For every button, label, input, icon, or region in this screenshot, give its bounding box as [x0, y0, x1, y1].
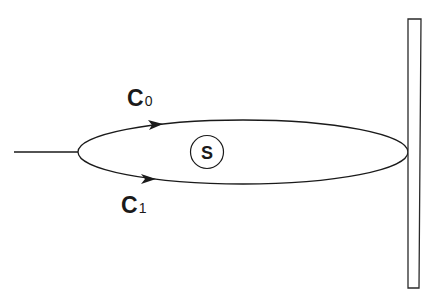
label-c0: C0 [127, 85, 153, 111]
arrow-bottom-icon [141, 174, 156, 184]
source-label: S [201, 143, 213, 163]
diagram-canvas: C0 C1 S [0, 0, 434, 300]
closed-loop-ellipse [78, 120, 408, 184]
wall-rectangle [408, 19, 421, 288]
label-c1: C1 [121, 192, 147, 218]
diagram-svg: C0 C1 S [0, 0, 434, 300]
